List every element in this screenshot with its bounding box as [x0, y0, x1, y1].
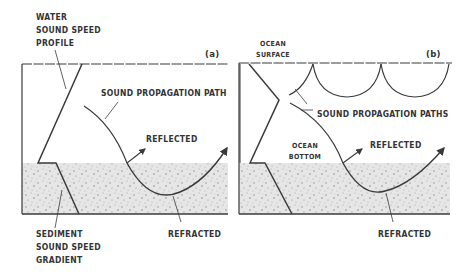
label-sediment-line3: GRADIENT [36, 255, 83, 265]
panel-a-tag: (a) [205, 48, 219, 59]
label-sediment-line1: SEDIMENT [36, 229, 83, 239]
leader-path-a [105, 102, 118, 119]
label-refracted-b: REFRACTED [378, 229, 431, 239]
reflected-arrow-a [127, 149, 145, 163]
label-reflected-b: REFLECTED [370, 140, 422, 150]
surface-arc-1 [313, 64, 381, 97]
label-path-a: SOUND PROPAGATION PATH [101, 88, 227, 98]
label-water-line1: WATER [36, 12, 67, 22]
label-surface-line1: OCEAN [260, 40, 286, 48]
panel-a: WATER SOUND SPEED PROFILE (a) SOUND PROP… [22, 12, 240, 265]
label-bottom-line1: OCEAN [292, 142, 318, 150]
panel-b-tag: (b) [426, 48, 441, 59]
label-reflected-a: REFLECTED [146, 134, 198, 144]
label-refracted-a: REFRACTED [168, 229, 221, 239]
sediment-layer-b [239, 163, 450, 214]
label-surface-line2: SURFACE [256, 51, 290, 59]
label-paths-b: SOUND PROPAGATION PATHS [317, 109, 449, 119]
leader-paths-b-1 [295, 89, 307, 104]
label-water-line2: SOUND SPEED [36, 25, 101, 35]
label-water-line3: PROFILE [36, 38, 74, 48]
panel-b: OCEAN SURFACE (b) SOUND PROPAGATION PATH… [239, 40, 452, 239]
sound-propagation-diagram: WATER SOUND SPEED PROFILE (a) SOUND PROP… [0, 0, 475, 275]
sediment-layer-a [22, 163, 228, 214]
label-sediment-line2: SOUND SPEED [36, 242, 101, 252]
surface-arc-2 [381, 64, 449, 97]
label-bottom-line2: BOTTOM [289, 153, 321, 161]
sound-path-a [84, 106, 127, 163]
surface-arc-partial [289, 64, 313, 95]
leader-water-profile [55, 50, 66, 89]
reflected-arrow-b [343, 149, 362, 163]
